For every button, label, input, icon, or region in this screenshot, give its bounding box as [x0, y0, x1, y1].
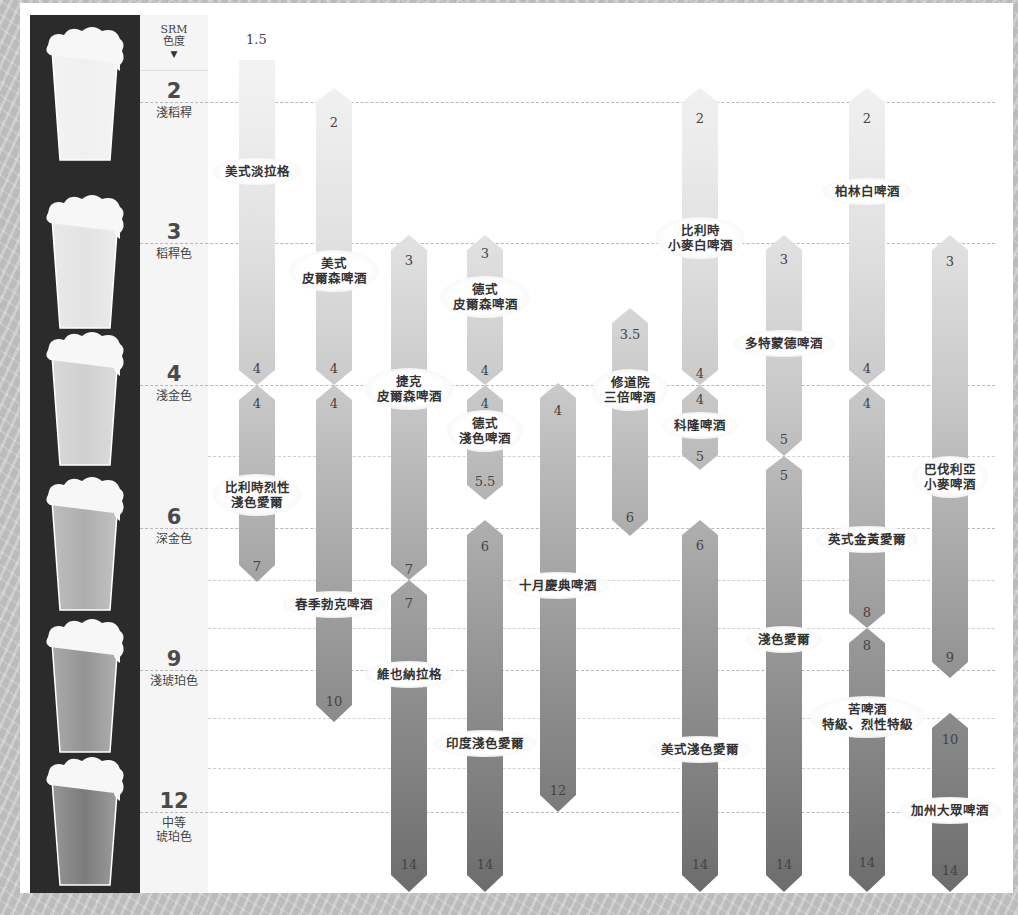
- label-oktoberfest: 十月慶典啤酒: [507, 572, 609, 599]
- label-tripel: 修道院三倍啤酒: [592, 369, 668, 411]
- bar-tripel: [612, 308, 648, 536]
- label-american-pilsner: 美式皮爾森啤酒: [290, 250, 379, 292]
- label-california-common: 加州大眾啤酒: [899, 797, 1001, 824]
- label-vienna-lager: 維也納拉格: [365, 661, 454, 688]
- label-german-pilsner: 德式皮爾森啤酒: [441, 276, 530, 318]
- label-dortmunder: 多特蒙德啤酒: [733, 330, 835, 357]
- bar-column-7: [682, 88, 718, 892]
- bar-column-6: [612, 308, 648, 536]
- bar-pale-ale: [766, 456, 802, 892]
- bar-column-10: [932, 235, 968, 892]
- label-pale-ale: 淺色愛爾: [746, 626, 822, 653]
- bar-vienna-lager: [391, 580, 427, 892]
- bar-maibock: [316, 385, 352, 722]
- bar-american-pale-ale: [682, 520, 718, 892]
- bar-golden-ale: [849, 385, 885, 628]
- label-american-light-lager: 美式淡拉格: [213, 158, 302, 185]
- label-golden-ale: 英式金黃愛爾: [816, 526, 918, 553]
- bar-column-4: [467, 235, 503, 892]
- label-witbier: 比利時小麥白啤酒: [656, 217, 745, 259]
- label-bitter: 苦啤酒特級、烈性特級: [810, 696, 925, 738]
- label-ipa: 印度淺色愛爾: [434, 730, 536, 757]
- bar-ipa: [467, 520, 503, 892]
- bar-american-light-lager: [239, 60, 275, 385]
- bar-american-pilsner: [316, 88, 352, 385]
- label-belgian-strong-pale-ale: 比利時烈性淺色愛爾: [213, 474, 302, 516]
- srm-range-bars: [0, 0, 1018, 915]
- label-berliner-weisse: 柏林白啤酒: [823, 178, 912, 205]
- label-czech-pilsner: 捷克皮爾森啤酒: [365, 368, 454, 410]
- bar-bitter: [849, 628, 885, 892]
- label-maibock: 春季勃克啤酒: [283, 591, 385, 618]
- label-american-pale-ale: 美式淺色愛爾: [649, 736, 751, 763]
- label-hefeweizen: 巴伐利亞小麥啤酒: [912, 456, 988, 498]
- label-helles: 德式淺色啤酒: [447, 410, 523, 452]
- bar-column-9: [849, 88, 885, 892]
- label-kolsch: 科隆啤酒: [662, 412, 738, 439]
- bar-berliner-weisse: [849, 88, 885, 385]
